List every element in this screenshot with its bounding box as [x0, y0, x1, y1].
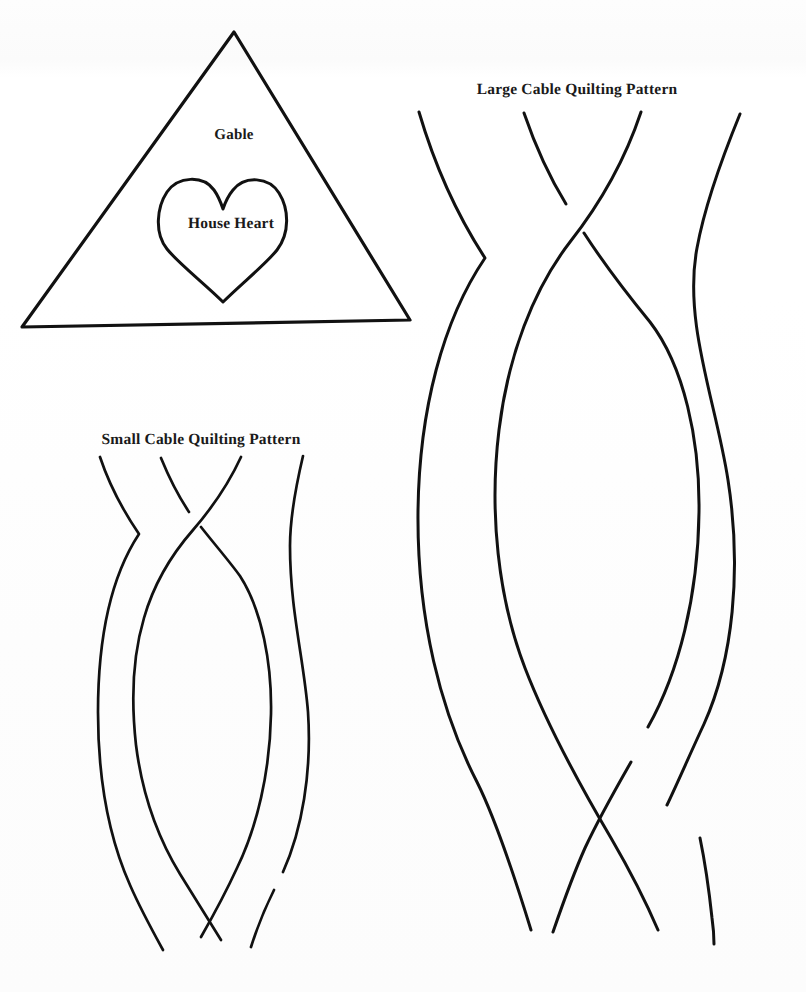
house-heart-label: House Heart	[188, 216, 274, 232]
small-cable-strand-b-upper	[161, 458, 189, 512]
gable-label: Gable	[214, 128, 253, 143]
small-cable-strand-c	[133, 457, 241, 940]
small-cable-label: Small Cable Quilting Pattern	[102, 432, 301, 448]
large-cable-strand-b-upper	[524, 113, 566, 204]
large-cable-label: Large Cable Quilting Pattern	[477, 82, 678, 98]
large-cable-strand-c	[495, 112, 658, 930]
large-cable-strand-b-tail	[553, 762, 631, 932]
large-cable-strand-d-lower	[700, 838, 714, 944]
house-heart-shape	[158, 179, 286, 302]
pattern-sheet-page: Gable House Heart Large Cable Quilting P…	[0, 0, 806, 992]
small-cable-pattern	[98, 456, 309, 950]
large-cable-pattern	[418, 112, 740, 944]
large-cable-strand-a	[418, 112, 531, 930]
pattern-artwork	[0, 0, 806, 992]
small-cable-strand-d-lower	[251, 890, 274, 947]
small-cable-strand-b-lower	[201, 527, 271, 937]
large-cable-strand-b-lower	[584, 233, 699, 727]
large-cable-strand-d-upper	[667, 114, 740, 805]
small-cable-strand-a	[98, 457, 163, 950]
small-cable-strand-d-upper	[283, 456, 309, 872]
gable-triangle-shape	[22, 32, 410, 327]
